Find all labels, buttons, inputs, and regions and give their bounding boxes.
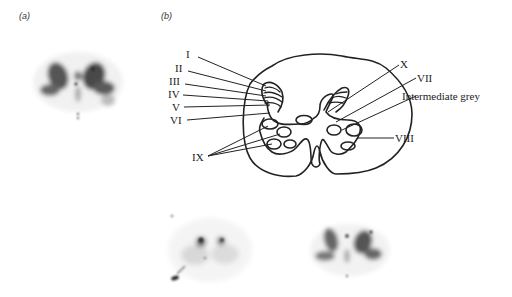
spinal-cord-diagram: I II III IV V VI IX X VII Intermediate g… [150,40,512,200]
label-lamina-IX: IX [192,151,204,163]
label-lamina-V: V [172,101,180,113]
label-lamina-VI: VI [170,114,182,126]
panel-label-a: (a) [19,11,30,21]
autoradiograph-a [28,42,128,124]
label-intermediate-grey: Intermediate grey [402,90,480,102]
label-lamina-VIII: VIII [395,132,414,144]
autoradiograph-d [305,218,395,288]
spinal-cord-outline [243,54,412,176]
label-lamina-IV: IV [168,88,180,100]
autoradiograph-c [165,210,255,290]
label-lamina-X: X [400,58,408,70]
label-lamina-I: I [186,48,190,60]
label-lamina-III: III [169,75,180,87]
label-lamina-VII: VII [417,72,433,84]
label-lamina-II: II [175,62,183,74]
panel-label-b: (b) [161,11,172,21]
